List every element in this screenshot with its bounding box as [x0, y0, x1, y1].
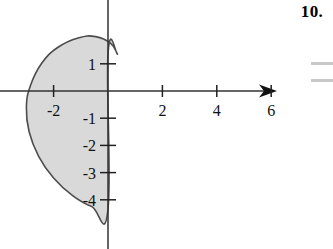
page-edge-rule-2 — [311, 79, 333, 82]
x-tick-label-4: 4 — [213, 102, 221, 119]
x-tick-label--2: -2 — [47, 102, 60, 119]
y-tick-label--2: -2 — [83, 137, 96, 154]
page-edge-rule-1 — [311, 62, 333, 65]
problem-number: 10. — [301, 2, 323, 22]
y-tick-label--3: -3 — [83, 165, 96, 182]
y-tick-label--4: -4 — [83, 192, 96, 209]
x-tick-label-6: 6 — [267, 102, 275, 119]
y-tick-label--1: -1 — [83, 110, 96, 127]
y-tick-label-1: 1 — [88, 56, 96, 73]
graph-svg: 2461-1-2-3-4-2 — [0, 0, 333, 249]
x-tick-label-2: 2 — [158, 102, 166, 119]
figure-container: 2461-1-2-3-4-2 10. — [0, 0, 333, 249]
